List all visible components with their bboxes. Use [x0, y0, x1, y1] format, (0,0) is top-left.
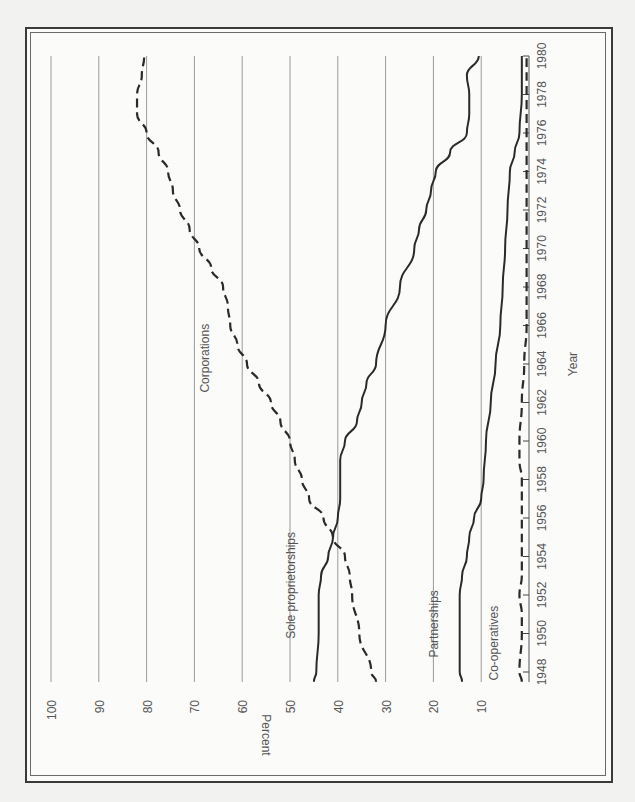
series-label: Sole proprietorships [284, 532, 298, 639]
gridlines: 102030405060708090100 [45, 56, 489, 720]
series-label: Corporations [198, 324, 212, 393]
x-tick-label: 1952 [535, 581, 549, 608]
x-tick-label: 1948 [535, 658, 549, 685]
y-tick-label: 80 [141, 700, 155, 714]
y-tick-label: 20 [427, 700, 441, 714]
x-tick-label: 1950 [535, 620, 549, 647]
series-labels: CorporationsSole proprietorshipsPartners… [198, 324, 501, 681]
x-tick-label: 1964 [535, 350, 549, 377]
x-tick-label: 1958 [535, 466, 549, 493]
x-tick-label: 1960 [535, 427, 549, 454]
series-label: Co-operatives [487, 606, 501, 681]
y-axis-title: Percent [259, 714, 273, 756]
x-tick-label: 1966 [535, 312, 549, 339]
x-tick-label: 1974 [535, 158, 549, 185]
x-tick-label: 1976 [535, 119, 549, 146]
y-tick-label: 100 [45, 700, 59, 720]
x-tick-label: 1978 [535, 81, 549, 108]
series-lines [137, 56, 527, 682]
y-tick-label: 50 [284, 700, 298, 714]
y-tick-label: 10 [475, 700, 489, 714]
series-co-operatives [519, 56, 526, 682]
x-axis-title: Year [566, 352, 580, 376]
x-tick-label: 1962 [535, 389, 549, 416]
x-tick-label: 1970 [535, 235, 549, 262]
y-tick-label: 40 [332, 700, 346, 714]
x-tick-label: 1968 [535, 273, 549, 300]
y-tick-label: 90 [93, 700, 107, 714]
x-tick-label: 1972 [535, 196, 549, 223]
x-tick-label: 1956 [535, 504, 549, 531]
y-tick-label: 60 [236, 700, 250, 714]
line-chart: 102030405060708090100 194819501952195419… [0, 0, 635, 802]
series-label: Partnerships [427, 590, 441, 657]
series-partnerships [460, 56, 522, 682]
y-tick-label: 70 [188, 700, 202, 714]
series-corporations [137, 56, 376, 682]
x-tick-label: 1954 [535, 543, 549, 570]
x-tick-label: 1980 [535, 42, 549, 69]
series-sole-proprietorships [314, 56, 479, 682]
y-tick-label: 30 [380, 700, 394, 714]
year-axis: 1948195019521954195619581960196219641966… [523, 42, 549, 685]
